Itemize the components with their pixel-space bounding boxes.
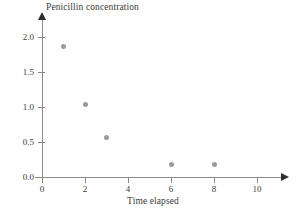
y-tick-mark xyxy=(38,37,45,38)
y-axis-line xyxy=(42,18,43,177)
y-tick-label-text: 1.0 xyxy=(8,102,34,112)
y-tick-label: 2.0 xyxy=(8,32,34,43)
x-axis-line xyxy=(35,177,283,178)
data-point xyxy=(104,135,109,140)
data-point xyxy=(61,44,66,49)
x-tick-label: 10 xyxy=(246,184,268,194)
y-tick-mark xyxy=(38,142,45,143)
scatter-plot-figure: Penicillin concentration 0.00.51.01.52.0… xyxy=(0,0,306,212)
y-tick-label-text: 2.0 xyxy=(8,32,34,42)
x-tick-mark xyxy=(171,177,172,183)
x-axis-arrow-icon xyxy=(281,173,289,181)
data-point xyxy=(169,162,174,167)
x-axis-label: Time elapsed xyxy=(0,196,306,206)
data-point xyxy=(83,102,88,107)
x-tick-label: 2 xyxy=(74,184,96,194)
x-tick-mark xyxy=(42,177,43,183)
x-tick-mark xyxy=(85,177,86,183)
x-tick-label: 6 xyxy=(160,184,182,194)
y-tick-mark xyxy=(38,107,45,108)
y-tick-label-text: 0.0 xyxy=(8,172,34,182)
x-tick-mark xyxy=(257,177,258,183)
x-tick-label: 8 xyxy=(203,184,225,194)
y-tick-label-text: 0.5 xyxy=(8,137,34,147)
x-tick-mark xyxy=(128,177,129,183)
y-axis-arrow-icon xyxy=(38,12,46,20)
plot-title: Penicillin concentration xyxy=(46,2,139,12)
data-point xyxy=(212,162,217,167)
y-tick-label-text: 1.5 xyxy=(8,67,34,77)
y-tick-label: 0.0 xyxy=(8,172,34,183)
x-tick-mark xyxy=(214,177,215,183)
x-tick-label: 0 xyxy=(31,184,53,194)
y-tick-label: 0.5 xyxy=(8,137,34,148)
y-tick-label: 1.0 xyxy=(8,102,34,113)
y-tick-label: 1.5 xyxy=(8,67,34,78)
y-tick-mark xyxy=(38,72,45,73)
x-tick-label: 4 xyxy=(117,184,139,194)
